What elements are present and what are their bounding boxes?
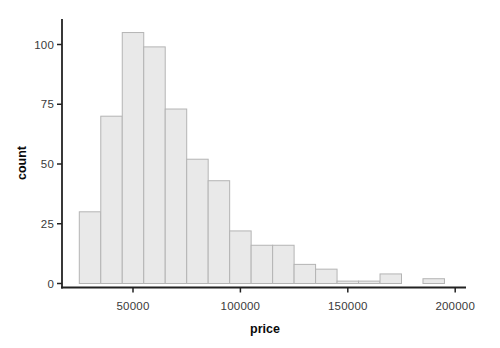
histogram-bar	[273, 245, 294, 283]
x-tick-label: 50000	[117, 300, 150, 312]
y-tick-label: 50	[41, 158, 54, 170]
x-tick-label: 150000	[328, 300, 368, 312]
histogram-bar	[294, 264, 315, 283]
histogram-bar	[208, 181, 229, 284]
histogram-bar	[337, 281, 358, 283]
histogram-bar	[359, 281, 380, 283]
histogram-bar	[380, 274, 401, 284]
y-tick-label: 100	[34, 39, 54, 51]
histogram-bar	[122, 33, 143, 284]
histogram-bar	[251, 245, 272, 283]
y-axis-title: count	[15, 145, 29, 180]
y-tick-label: 75	[41, 98, 54, 110]
chart-canvas: 025507510050000100000150000200000 price …	[0, 0, 500, 348]
histogram-figure: 025507510050000100000150000200000 price …	[0, 0, 500, 348]
histogram-bar	[423, 279, 444, 284]
histogram-bar	[101, 116, 122, 283]
histogram-bar	[316, 269, 337, 283]
histogram-bar	[165, 109, 186, 283]
x-tick-label: 100000	[221, 300, 261, 312]
histogram-bar	[79, 212, 100, 284]
bars-group	[79, 33, 444, 284]
histogram-bar	[187, 159, 208, 283]
x-axis-title: price	[250, 322, 280, 336]
histogram-bar	[144, 47, 165, 284]
y-tick-label: 25	[41, 218, 54, 230]
y-tick-label: 0	[47, 278, 54, 290]
x-tick-label: 200000	[435, 300, 475, 312]
histogram-bar	[230, 231, 251, 284]
